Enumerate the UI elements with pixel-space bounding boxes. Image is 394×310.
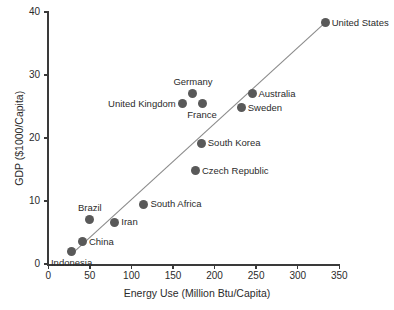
x-tick-mark [255, 265, 256, 269]
data-point[interactable] [85, 215, 94, 224]
x-tick-mark [48, 265, 49, 269]
x-tick-label: 350 [319, 271, 359, 281]
data-point[interactable] [67, 247, 76, 256]
data-point-label: Indonesia [51, 258, 92, 268]
x-tick-label: 50 [70, 271, 110, 281]
data-point-label: Czech Republic [202, 166, 269, 176]
data-point[interactable] [139, 200, 148, 209]
data-point[interactable] [178, 99, 187, 108]
data-point-label: South Africa [150, 199, 201, 209]
data-point[interactable] [237, 103, 246, 112]
x-tick-mark [131, 265, 132, 269]
y-tick-mark [44, 11, 48, 12]
data-point-label: China [89, 237, 114, 247]
data-point[interactable] [191, 166, 200, 175]
data-point-label: Brazil [78, 202, 102, 212]
data-point-label: Sweden [248, 103, 282, 113]
x-tick-label: 150 [153, 271, 193, 281]
data-point[interactable] [78, 237, 87, 246]
y-tick-mark [44, 200, 48, 201]
data-point-label: United Kingdom [108, 99, 176, 109]
data-point-label: United States [332, 18, 389, 28]
y-tick-mark [44, 137, 48, 138]
x-tick-mark [297, 265, 298, 269]
data-point-label: Australia [259, 89, 296, 99]
x-tick-mark [214, 265, 215, 269]
x-tick-label: 100 [111, 271, 151, 281]
x-tick-label: 0 [28, 271, 68, 281]
data-point[interactable] [188, 89, 197, 98]
data-point-label: Germany [173, 77, 212, 87]
data-point[interactable] [321, 18, 330, 27]
x-axis-title: Energy Use (Million Btu/Capita) [0, 288, 394, 299]
x-tick-mark [172, 265, 173, 269]
data-point[interactable] [198, 99, 207, 108]
x-tick-label: 200 [195, 271, 235, 281]
data-point-label: Iran [121, 218, 137, 228]
scatter-chart: 010203040 050100150200250300350 United S… [0, 0, 394, 310]
data-point[interactable] [248, 89, 257, 98]
y-tick-mark [44, 74, 48, 75]
data-point[interactable] [110, 218, 119, 227]
data-point[interactable] [197, 139, 206, 148]
x-tick-label: 250 [236, 271, 276, 281]
x-tick-mark [339, 265, 340, 269]
y-tick-label: 40 [14, 7, 40, 17]
y-tick-label: 0 [14, 259, 40, 269]
x-tick-label: 300 [278, 271, 318, 281]
data-point-label: South Korea [208, 138, 261, 148]
data-point-label: France [187, 110, 217, 120]
y-axis-title: GDP ($1000/Capita) [14, 58, 25, 218]
